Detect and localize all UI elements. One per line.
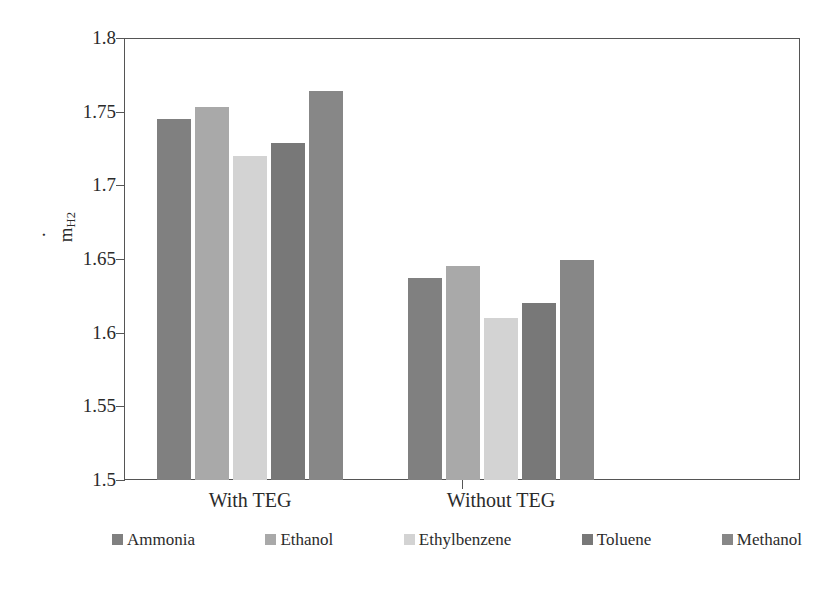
bar-ethanol-with-teg: [195, 107, 229, 480]
bar-ammonia-with-teg: [157, 119, 191, 480]
legend-label: Ethanol: [280, 531, 333, 548]
legend-label: Ammonia: [127, 531, 195, 548]
y-axis-tick-mark: [116, 406, 125, 407]
legend-swatch-icon: [404, 534, 415, 545]
bars-layer: [0, 0, 821, 591]
bar-ethanol-without-teg: [446, 266, 480, 480]
legend-swatch-icon: [265, 534, 276, 545]
legend-label: Methanol: [737, 531, 802, 548]
legend-item-ethylbenzene[interactable]: Ethylbenzene: [404, 531, 512, 548]
bar-chart: mH2 1.51.551.61.651.71.751.8 With TEGWit…: [0, 0, 821, 591]
bar-ammonia-without-teg: [408, 278, 442, 480]
x-axis-label-without-teg: Without TEG: [447, 489, 555, 512]
legend-swatch-icon: [722, 534, 733, 545]
legend-item-toluene[interactable]: Toluene: [582, 531, 652, 548]
bar-methanol-with-teg: [309, 91, 343, 480]
bar-toluene-without-teg: [522, 303, 556, 480]
legend-swatch-icon: [112, 534, 123, 545]
legend-label: Toluene: [597, 531, 652, 548]
y-axis-tick-mark: [116, 259, 125, 260]
bar-ethylbenzene-without-teg: [484, 318, 518, 480]
bar-ethylbenzene-with-teg: [233, 156, 267, 480]
legend-item-ethanol[interactable]: Ethanol: [265, 531, 333, 548]
x-axis-label-with-teg: With TEG: [209, 489, 292, 512]
chart-legend: AmmoniaEthanolEthylbenzeneTolueneMethano…: [112, 531, 802, 548]
bar-methanol-without-teg: [560, 260, 594, 480]
legend-swatch-icon: [582, 534, 593, 545]
legend-item-ammonia[interactable]: Ammonia: [112, 531, 195, 548]
y-axis-tick-mark: [116, 333, 125, 334]
y-axis-tick-mark: [116, 480, 125, 481]
legend-item-methanol[interactable]: Methanol: [722, 531, 802, 548]
y-axis-tick-mark: [116, 38, 125, 39]
bar-toluene-with-teg: [271, 143, 305, 480]
legend-label: Ethylbenzene: [419, 531, 512, 548]
x-axis-mid-tick: [462, 480, 463, 489]
y-axis-tick-mark: [116, 185, 125, 186]
y-axis-tick-mark: [116, 112, 125, 113]
